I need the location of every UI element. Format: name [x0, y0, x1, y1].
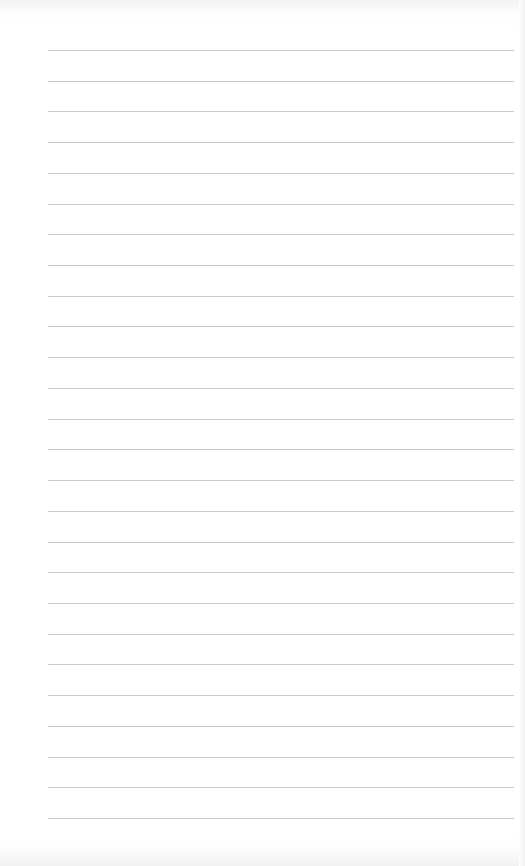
ruled-line — [48, 664, 514, 665]
ruled-line — [48, 542, 514, 543]
ruled-line — [48, 634, 514, 635]
ruled-line — [48, 419, 514, 420]
ruled-line — [48, 173, 514, 174]
ruled-line — [48, 572, 514, 573]
ruled-line — [48, 204, 514, 205]
ruled-line — [48, 787, 514, 788]
ruled-line — [48, 142, 514, 143]
ruled-line — [48, 326, 514, 327]
ruled-line — [48, 818, 514, 819]
lined-paper-sheet — [0, 0, 525, 866]
ruled-line — [48, 111, 514, 112]
ruled-line — [48, 265, 514, 266]
ruled-line — [48, 511, 514, 512]
paper-edge-shadow — [519, 0, 525, 866]
ruled-line — [48, 726, 514, 727]
ruled-line — [48, 81, 514, 82]
ruled-line — [48, 480, 514, 481]
ruled-line — [48, 603, 514, 604]
ruled-line — [48, 50, 514, 51]
ruled-line — [48, 757, 514, 758]
ruled-line — [48, 234, 514, 235]
ruled-line — [48, 449, 514, 450]
ruled-line — [48, 357, 514, 358]
ruled-line — [48, 296, 514, 297]
ruled-line — [48, 388, 514, 389]
ruled-line — [48, 695, 514, 696]
